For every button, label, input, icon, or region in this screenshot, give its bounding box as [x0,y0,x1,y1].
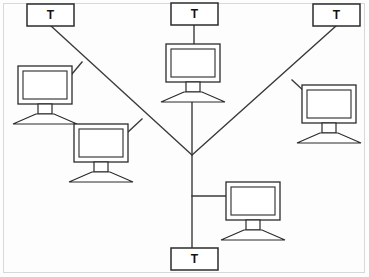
terminal-bottom: T [171,248,218,270]
computer-bottom-right [221,182,285,240]
monitor-stand-base [297,133,361,143]
terminal-top-left: T [27,4,74,26]
monitor-stand-base [69,172,133,182]
monitor-screen [171,49,215,77]
computer-left-lower [69,124,133,182]
terminal-box-label: T [191,7,199,21]
monitor-stand-neck [322,123,336,133]
network-topology-svg: TTTT [0,0,369,277]
computer-left-upper [13,66,77,124]
terminal-box-label: T [333,8,341,22]
terminal-top-center: T [171,3,218,25]
monitor-stand-neck [186,82,200,92]
computer-center-top [161,44,225,102]
computers-layer [13,44,361,240]
terminal-box-label: T [47,8,55,22]
monitor-stand-neck [38,104,52,114]
network-diagram-canvas: TTTT [0,0,369,277]
terminal-top-right: T [313,4,360,26]
monitor-screen [79,129,123,157]
monitor-stand-neck [94,162,108,172]
computer-right [297,85,361,143]
link-stub-left-upper [72,62,82,74]
monitor-stand-base [221,230,285,240]
link-stub-left-lower [128,119,142,132]
monitor-screen [231,187,275,215]
terminal-box-label: T [191,252,199,266]
monitor-screen [23,71,67,99]
monitor-stand-base [161,92,225,102]
monitor-stand-neck [246,220,260,230]
monitor-screen [307,90,351,118]
monitor-stand-base [13,114,77,124]
